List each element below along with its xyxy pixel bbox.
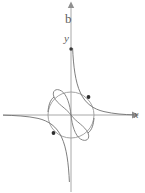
- math-figure: b y x: [0, 0, 145, 193]
- figure-label-b: b: [65, 12, 72, 25]
- tangency-point-lower-left: [52, 131, 56, 135]
- y-axis-point-marker: [69, 47, 72, 50]
- y-axis-label: y: [64, 33, 69, 44]
- figure-canvas: [0, 0, 145, 193]
- x-axis-label: x: [134, 110, 138, 120]
- asymptotic-branch-lower-left: [3, 115, 69, 182]
- y-axis-arrowhead: [68, 2, 74, 9]
- asymptotic-branch-upper-right: [73, 48, 134, 115]
- tangency-point-upper-right: [87, 95, 91, 99]
